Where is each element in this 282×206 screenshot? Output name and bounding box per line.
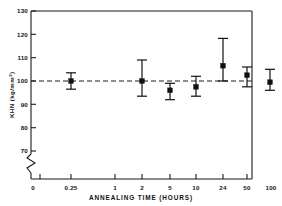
y-axis-tick-labels: 130 120 110 100 90 80 70 — [17, 7, 28, 154]
y-axis-title-text: KHN (kg/mm — [8, 77, 15, 118]
data-marker — [194, 84, 199, 89]
annealing-time-khn-scatter-chart: 130 120 110 100 90 80 70 KHN (kg/mm2) — [0, 0, 282, 206]
data-series-khn — [66, 38, 275, 99]
x-axis-tick-labels: 0 0.25 1 2 5 10 24 50 100 — [31, 184, 277, 191]
y-tick-label: 130 — [17, 7, 28, 14]
y-tick-label: 90 — [21, 101, 29, 108]
y-tick-label: 110 — [17, 54, 28, 61]
x-tick-label: 1 — [113, 184, 117, 191]
y-tick-label: 100 — [17, 77, 28, 84]
y-tick-label: 120 — [17, 31, 28, 38]
x-tick-label: 50 — [243, 184, 251, 191]
x-tick-label: 100 — [266, 184, 277, 191]
y-axis-break-icon — [27, 154, 35, 173]
data-point-group — [137, 60, 147, 96]
svg-text:KHN (kg/mm2): KHN (kg/mm2) — [8, 72, 15, 118]
data-point-group — [191, 76, 201, 96]
data-marker — [69, 79, 74, 84]
x-tick-label: 0.25 — [65, 184, 78, 191]
data-point-group — [218, 38, 228, 81]
x-tick-label: 10 — [192, 184, 200, 191]
x-tick-label: 24 — [219, 184, 227, 191]
x-axis-title: ANNEALING TIME (HOURS) — [89, 194, 193, 202]
y-tick-label: 80 — [21, 124, 29, 131]
x-tick-label: 2 — [140, 184, 144, 191]
data-marker — [268, 80, 273, 85]
data-marker — [140, 79, 145, 84]
data-point-group — [265, 69, 275, 90]
data-point-group — [165, 83, 175, 99]
data-marker — [221, 63, 226, 68]
x-tick-label: 5 — [168, 184, 172, 191]
chart-figure: 130 120 110 100 90 80 70 KHN (kg/mm2) — [0, 0, 282, 206]
data-marker — [245, 73, 250, 78]
x-axis-ticks — [40, 174, 247, 179]
y-axis-title-tail: ) — [8, 72, 15, 74]
x-tick-label: 0 — [31, 184, 35, 191]
y-tick-label: 70 — [21, 147, 29, 154]
plot-frame — [27, 11, 252, 179]
data-marker — [168, 88, 173, 93]
y-axis-title: KHN (kg/mm2) — [8, 72, 15, 118]
data-point-group — [242, 67, 252, 87]
